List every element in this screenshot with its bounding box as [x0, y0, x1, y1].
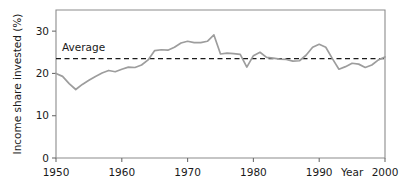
- y-axis-tick-labels: 0102030: [36, 25, 49, 164]
- y-tick-label: 30: [36, 25, 49, 37]
- x-tick-label: 1990: [306, 166, 333, 178]
- plot-frame: [56, 10, 385, 158]
- x-tick-label: 1980: [240, 166, 267, 178]
- y-axis-title: Income share invested (%): [11, 14, 23, 155]
- x-tick-label: 1950: [43, 166, 70, 178]
- line-chart: 0102030 195019601970198019902000 Average…: [0, 0, 411, 192]
- average-annotation-label: Average: [62, 41, 105, 53]
- y-axis-ticks: [52, 31, 56, 158]
- y-tick-label: 10: [36, 109, 49, 121]
- y-tick-label: 20: [36, 67, 49, 79]
- y-tick-label: 0: [42, 152, 49, 164]
- x-tick-label: 2000: [372, 166, 399, 178]
- chart-figure: 0102030 195019601970198019902000 Average…: [0, 0, 411, 192]
- income-share-series-line: [56, 35, 385, 90]
- x-tick-label: 1960: [108, 166, 135, 178]
- x-tick-label: 1970: [174, 166, 201, 178]
- x-axis-title: Year: [340, 166, 364, 178]
- x-axis-ticks: [56, 158, 385, 162]
